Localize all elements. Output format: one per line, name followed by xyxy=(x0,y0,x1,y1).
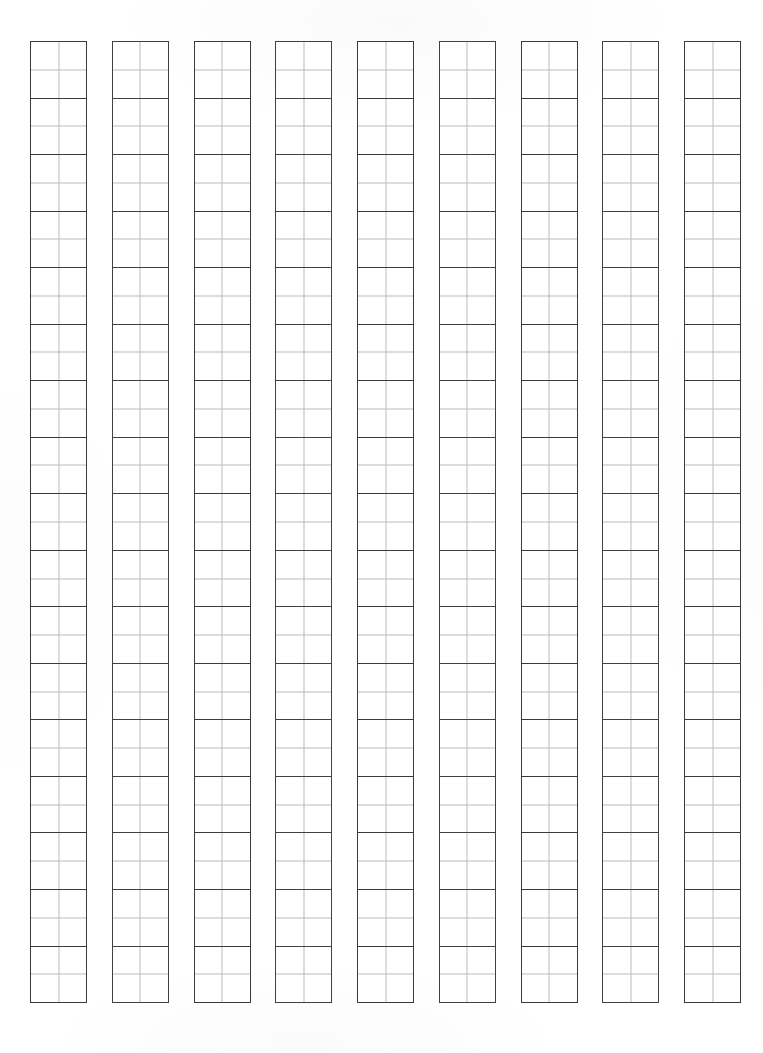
grid-cell[interactable] xyxy=(30,154,87,211)
grid-cell[interactable] xyxy=(275,98,332,155)
grid-cell[interactable] xyxy=(439,437,496,494)
grid-cell[interactable] xyxy=(357,946,414,1004)
grid-cell[interactable] xyxy=(521,437,578,494)
grid-cell[interactable] xyxy=(275,267,332,324)
grid-cell[interactable] xyxy=(112,98,169,155)
grid-cell[interactable] xyxy=(684,267,741,324)
grid-cell[interactable] xyxy=(521,719,578,776)
grid-cell[interactable] xyxy=(30,493,87,550)
grid-cell[interactable] xyxy=(30,98,87,155)
grid-cell[interactable] xyxy=(602,889,659,946)
grid-cell[interactable] xyxy=(684,493,741,550)
grid-cell[interactable] xyxy=(439,946,496,1004)
grid-cell[interactable] xyxy=(30,719,87,776)
grid-cell[interactable] xyxy=(194,493,251,550)
grid-cell[interactable] xyxy=(357,606,414,663)
grid-cell[interactable] xyxy=(357,550,414,607)
grid-cell[interactable] xyxy=(275,211,332,268)
grid-cell[interactable] xyxy=(112,776,169,833)
grid-cell[interactable] xyxy=(112,324,169,381)
grid-cell[interactable] xyxy=(439,663,496,720)
grid-cell[interactable] xyxy=(30,889,87,946)
grid-cell[interactable] xyxy=(521,98,578,155)
grid-cell[interactable] xyxy=(439,41,496,98)
grid-cell[interactable] xyxy=(357,889,414,946)
grid-cell[interactable] xyxy=(194,324,251,381)
grid-cell[interactable] xyxy=(112,154,169,211)
grid-cell[interactable] xyxy=(357,324,414,381)
grid-cell[interactable] xyxy=(439,324,496,381)
grid-cell[interactable] xyxy=(275,606,332,663)
grid-cell[interactable] xyxy=(684,211,741,268)
grid-cell[interactable] xyxy=(521,776,578,833)
grid-cell[interactable] xyxy=(439,889,496,946)
grid-cell[interactable] xyxy=(194,267,251,324)
grid-cell[interactable] xyxy=(439,380,496,437)
grid-cell[interactable] xyxy=(521,606,578,663)
grid-cell[interactable] xyxy=(439,267,496,324)
grid-cell[interactable] xyxy=(112,889,169,946)
grid-cell[interactable] xyxy=(684,550,741,607)
grid-cell[interactable] xyxy=(521,41,578,98)
grid-cell[interactable] xyxy=(357,719,414,776)
grid-cell[interactable] xyxy=(439,493,496,550)
grid-cell[interactable] xyxy=(521,267,578,324)
grid-cell[interactable] xyxy=(112,663,169,720)
grid-cell[interactable] xyxy=(30,437,87,494)
grid-cell[interactable] xyxy=(275,832,332,889)
grid-cell[interactable] xyxy=(194,946,251,1004)
grid-cell[interactable] xyxy=(602,606,659,663)
grid-cell[interactable] xyxy=(194,889,251,946)
grid-cell[interactable] xyxy=(602,493,659,550)
grid-cell[interactable] xyxy=(275,41,332,98)
grid-cell[interactable] xyxy=(112,41,169,98)
grid-cell[interactable] xyxy=(684,98,741,155)
grid-cell[interactable] xyxy=(112,550,169,607)
grid-cell[interactable] xyxy=(30,550,87,607)
grid-cell[interactable] xyxy=(275,154,332,211)
grid-cell[interactable] xyxy=(194,211,251,268)
grid-cell[interactable] xyxy=(30,324,87,381)
grid-cell[interactable] xyxy=(194,380,251,437)
grid-cell[interactable] xyxy=(275,324,332,381)
grid-cell[interactable] xyxy=(521,663,578,720)
grid-cell[interactable] xyxy=(684,719,741,776)
grid-cell[interactable] xyxy=(30,663,87,720)
grid-cell[interactable] xyxy=(684,324,741,381)
grid-cell[interactable] xyxy=(30,41,87,98)
grid-cell[interactable] xyxy=(602,550,659,607)
grid-cell[interactable] xyxy=(30,606,87,663)
grid-cell[interactable] xyxy=(275,719,332,776)
grid-cell[interactable] xyxy=(357,211,414,268)
grid-cell[interactable] xyxy=(30,776,87,833)
grid-cell[interactable] xyxy=(602,832,659,889)
grid-cell[interactable] xyxy=(30,380,87,437)
grid-cell[interactable] xyxy=(521,324,578,381)
grid-cell[interactable] xyxy=(194,832,251,889)
grid-cell[interactable] xyxy=(684,889,741,946)
grid-cell[interactable] xyxy=(357,832,414,889)
grid-cell[interactable] xyxy=(521,946,578,1004)
grid-cell[interactable] xyxy=(684,41,741,98)
grid-cell[interactable] xyxy=(602,211,659,268)
grid-cell[interactable] xyxy=(439,606,496,663)
grid-cell[interactable] xyxy=(521,154,578,211)
grid-cell[interactable] xyxy=(275,776,332,833)
grid-cell[interactable] xyxy=(194,776,251,833)
grid-cell[interactable] xyxy=(194,41,251,98)
grid-cell[interactable] xyxy=(357,437,414,494)
grid-cell[interactable] xyxy=(602,154,659,211)
grid-cell[interactable] xyxy=(112,719,169,776)
grid-cell[interactable] xyxy=(602,380,659,437)
grid-cell[interactable] xyxy=(684,154,741,211)
grid-cell[interactable] xyxy=(275,946,332,1004)
grid-cell[interactable] xyxy=(602,946,659,1004)
grid-cell[interactable] xyxy=(439,776,496,833)
grid-cell[interactable] xyxy=(602,98,659,155)
grid-cell[interactable] xyxy=(194,663,251,720)
grid-cell[interactable] xyxy=(684,606,741,663)
grid-cell[interactable] xyxy=(439,211,496,268)
grid-cell[interactable] xyxy=(275,889,332,946)
grid-cell[interactable] xyxy=(275,493,332,550)
grid-cell[interactable] xyxy=(439,550,496,607)
